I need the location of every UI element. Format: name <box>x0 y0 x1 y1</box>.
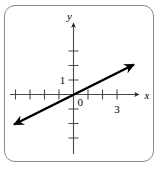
coordinate-plane-graph: y x 0 1 3 <box>5 6 154 162</box>
y-tick-label-1: 1 <box>60 74 66 86</box>
x-tick-label-3: 3 <box>114 103 120 115</box>
origin-label: 0 <box>78 96 84 108</box>
figure-caption-strip <box>0 166 159 177</box>
x-axis-label: x <box>144 89 150 101</box>
plot-frame: y x 0 1 3 <box>4 5 154 162</box>
y-axis-label: y <box>66 10 72 22</box>
figure-root: y x 0 1 3 <box>0 0 159 177</box>
